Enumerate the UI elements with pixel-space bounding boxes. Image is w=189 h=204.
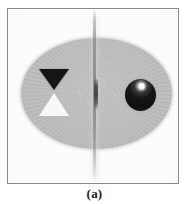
vertical-streak-core <box>94 79 98 109</box>
reconstructed-phantom-panel <box>7 8 179 184</box>
light-upward-triangle <box>39 93 69 116</box>
figure-root: (a) <box>0 0 189 204</box>
sphere-specular-highlight <box>139 83 145 90</box>
dark-downward-triangle <box>39 69 69 90</box>
figure-caption: (a) <box>0 185 189 202</box>
